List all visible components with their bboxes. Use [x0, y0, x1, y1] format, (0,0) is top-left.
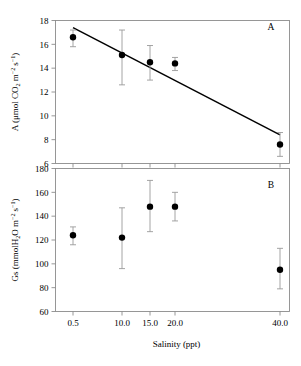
panel-label-B: B — [268, 180, 274, 190]
data-point-A-1 — [119, 52, 125, 58]
plot-frame-B — [56, 169, 290, 312]
y-tick-label-B-3: 120 — [35, 235, 49, 245]
y-tick-label-B-5: 80 — [40, 283, 50, 293]
data-point-B-4 — [277, 267, 283, 273]
y-axis-title-B: Gs (mmolH2O m−2 s−1) — [9, 198, 21, 281]
regression-line — [73, 28, 280, 135]
y-tick-label-B-4: 100 — [35, 259, 49, 269]
y-tick-label-B-0: 180 — [35, 164, 49, 174]
scientific-figure: 181614121086AA (μmol CO2 m−2 s−1)1801601… — [0, 0, 301, 366]
y-axis-title-A: A (μmol CO2 m−2 s−1) — [9, 53, 21, 132]
x-tick-label-2: 15.0 — [142, 318, 158, 328]
plot-frame-A — [56, 21, 290, 164]
figure-container: 181614121086AA (μmol CO2 m−2 s−1)1801601… — [0, 0, 301, 366]
x-tick-label-3: 20.0 — [167, 318, 183, 328]
y-tick-label-B-2: 140 — [35, 211, 49, 221]
panel-B: 18016014012010080600.510.015.020.040.0B — [35, 164, 290, 328]
data-point-B-0 — [70, 232, 76, 238]
y-tick-label-B-6: 60 — [40, 307, 50, 317]
data-point-A-2 — [147, 59, 153, 65]
panel-A: 181614121086A — [40, 16, 290, 169]
data-point-A-3 — [172, 60, 178, 66]
x-tick-label-0: 0.5 — [67, 318, 79, 328]
y-tick-label-A-3: 12 — [40, 87, 49, 97]
data-point-A-0 — [70, 34, 76, 40]
y-tick-label-A-1: 16 — [40, 40, 50, 50]
y-tick-label-A-2: 14 — [40, 63, 50, 73]
x-tick-label-4: 40.0 — [272, 318, 288, 328]
data-point-A-4 — [277, 141, 283, 147]
y-tick-label-B-1: 160 — [35, 188, 49, 198]
data-point-B-2 — [147, 203, 153, 209]
x-axis-title: Salinity (ppt) — [153, 339, 201, 349]
data-point-B-3 — [172, 203, 178, 209]
panel-label-A: A — [268, 22, 275, 32]
y-tick-label-A-5: 8 — [44, 135, 49, 145]
data-point-B-1 — [119, 234, 125, 240]
x-tick-label-1: 10.0 — [114, 318, 130, 328]
y-tick-label-A-4: 10 — [40, 111, 50, 121]
y-tick-label-A-0: 18 — [40, 16, 50, 26]
